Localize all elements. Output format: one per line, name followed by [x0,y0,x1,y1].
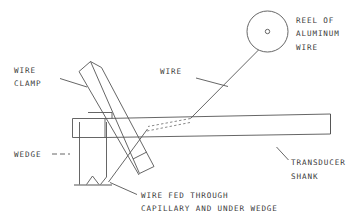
capillary-upper-dashed-line [148,119,191,127]
wire-clamp-label-line2: CLAMP [14,79,41,88]
transducer-shank-leader [277,147,289,160]
wire-bonder-diagram: REEL OF ALUMINUM WIRE WIRE WIRE CLAMP WE… [0,0,364,220]
shank-top-notch [88,113,112,119]
wire-label-line1: WIRE [160,67,182,76]
transducer-shank-label-line2: SHANK [291,172,318,181]
wire-clamp-label-line1: WIRE [14,66,36,75]
reel-label-line1: REEL OF [296,16,334,25]
diagram-canvas: REEL OF ALUMINUM WIRE WIRE WIRE CLAMP WE… [0,0,364,220]
reel-label-line2: ALUMINUM [296,29,340,38]
wedge-label-line1: WEDGE [14,150,41,159]
shank-left-block [73,119,106,138]
reel-outer-circle [247,11,288,52]
wire-fed-label-line2: CAPILLARY AND UNDER WEDGE [141,204,278,213]
wedge-tip-notch [87,176,100,185]
label-reel-of-aluminum-wire: REEL OF ALUMINUM WIRE [296,16,340,52]
wire-clamp-rear-arm [79,72,139,176]
reel-label-line3: WIRE [296,43,318,52]
wedge-chamfer-edge [101,177,107,185]
wire-strand-line [191,50,259,119]
label-wedge: WEDGE [14,150,41,159]
label-transducer-shank: TRANSDUCER SHANK [291,158,346,181]
transducer-shank [73,113,331,138]
label-wire: WIRE [160,67,182,76]
label-wire-fed-through-capillary: WIRE FED THROUGH CAPILLARY AND UNDER WED… [141,191,278,214]
wire-clamp-top-edge [79,62,91,72]
wire-label-leader [196,78,228,87]
wire-clamp-leader [60,79,87,88]
reel-hub-icon [265,29,269,33]
wire-fed-leader [110,183,137,195]
label-wire-clamp: WIRE CLAMP [14,66,41,89]
capillary-channel [109,119,191,183]
capillary-lower-dashed-line [147,123,190,132]
aluminum-wire-strand [191,50,259,119]
reel-of-aluminum-wire [247,11,288,52]
wedge [80,122,107,185]
shank-tapered-body [105,114,331,138]
wire-fed-label-line1: WIRE FED THROUGH [141,191,229,200]
transducer-shank-label-line1: TRANSDUCER [291,158,346,167]
wire-clamp-pad-line [133,152,147,159]
